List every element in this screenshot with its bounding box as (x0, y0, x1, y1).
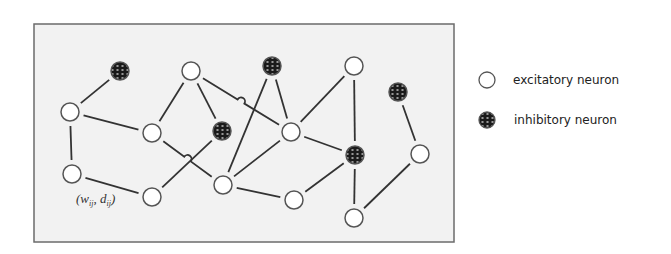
inhibitory-neuron-node (263, 57, 281, 75)
weight-symbol: (w (76, 191, 89, 206)
excitatory-neuron-node (182, 62, 200, 80)
label-close-paren: ) (110, 191, 115, 206)
excitatory-neuron-icon (479, 72, 495, 88)
legend: excitatory neuron inhibitory neuron (479, 72, 619, 128)
delay-symbol: , d (93, 191, 107, 206)
inhibitory-neuron-node (346, 146, 364, 164)
inhibitory-neuron-node (213, 122, 231, 140)
network-diagram: (wij, dij) excitatory neuron inhibitory … (0, 0, 671, 254)
inhibitory-neuron-node (389, 83, 407, 101)
excitatory-neuron-node (345, 209, 363, 227)
excitatory-neuron-node (285, 191, 303, 209)
inhibitory-neuron-node (111, 62, 129, 80)
synapse-edge (70, 126, 71, 160)
synapse-edge (354, 169, 355, 204)
legend-inhibitory-label: inhibitory neuron (514, 113, 617, 127)
excitatory-neuron-node (61, 103, 79, 121)
excitatory-neuron-node (282, 123, 300, 141)
excitatory-neuron-node (143, 124, 161, 142)
excitatory-neuron-node (63, 165, 81, 183)
excitatory-neuron-node (214, 176, 232, 194)
legend-excitatory-label: excitatory neuron (513, 73, 619, 87)
synapse-edge (354, 80, 355, 141)
excitatory-neuron-node (143, 188, 161, 206)
excitatory-neuron-node (345, 57, 363, 75)
excitatory-neuron-node (411, 145, 429, 163)
inhibitory-neuron-icon (479, 112, 495, 128)
